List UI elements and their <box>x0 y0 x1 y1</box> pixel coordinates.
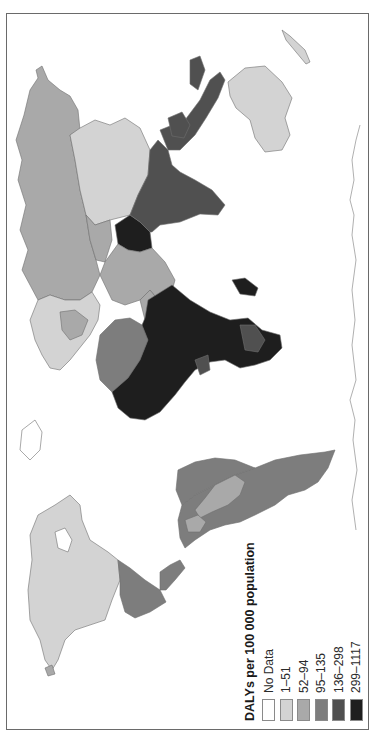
legend-swatch <box>350 699 363 721</box>
legend-label: No Data <box>262 649 276 693</box>
legend-label: 95–135 <box>314 653 328 693</box>
legend-swatch <box>332 699 345 721</box>
region-greenland <box>20 420 42 460</box>
legend-label: 1–51 <box>279 666 293 693</box>
region-antarctica <box>350 125 360 530</box>
legend-label: 136–298 <box>332 646 346 693</box>
legend-title: DALYs per 100 000 population <box>240 515 260 725</box>
legend-swatch <box>315 699 328 721</box>
legend-item-52-94: 52–94 <box>295 515 313 725</box>
legend-item-299-1117: 299–1117 <box>348 515 366 725</box>
legend-item-95-135: 95–135 <box>313 515 331 725</box>
region-madagascar <box>232 278 258 296</box>
legend-item-1-51: 1–51 <box>278 515 296 725</box>
region-australia <box>228 66 292 152</box>
region-philippines <box>190 56 205 90</box>
region-new-zealand <box>282 30 310 64</box>
legend: DALYs per 100 000 population No Data 1–5… <box>240 515 367 725</box>
legend-label: 299–1117 <box>349 641 363 693</box>
region-mexico <box>118 560 166 618</box>
legend-swatch <box>262 699 275 721</box>
region-north-america <box>28 495 120 670</box>
legend-item-136-298: 136–298 <box>330 515 348 725</box>
legend-swatch <box>280 699 293 721</box>
region-central-america <box>160 560 185 590</box>
legend-item-no-data: No Data <box>260 515 278 725</box>
legend-label: 52–94 <box>297 660 311 693</box>
legend-swatch <box>297 699 310 721</box>
